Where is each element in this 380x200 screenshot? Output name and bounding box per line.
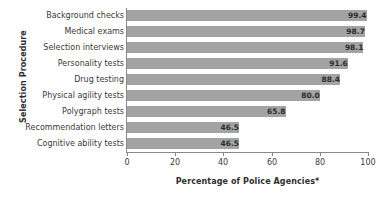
x-tick-label: 100 [353,158,380,167]
category-label: Physical agility tests [14,88,124,104]
category-label: Background checks [14,8,124,24]
x-tick-mark [223,152,224,156]
bar-row: 80.0 [127,88,368,104]
category-label: Recommendation letters [14,120,124,136]
category-label: Polygraph tests [14,104,124,120]
x-tick-mark [127,152,128,156]
bar-value-label: 65.8 [127,106,288,117]
plot-area: 99.4 98.7 98.1 91.6 88.4 80.0 65.8 46.5 [127,8,368,152]
bar-value-label: 46.5 [127,122,241,133]
bar-row: 99.4 [127,8,368,24]
bar-value-label: 99.4 [127,10,369,21]
bar-row: 91.6 [127,56,368,72]
x-tick-label: 40 [208,158,238,167]
bar-row: 46.5 [127,136,368,152]
x-tick-label: 0 [112,158,142,167]
category-label: Medical exams [14,24,124,40]
category-label: Cognitive ability tests [14,136,124,152]
bar-row: 65.8 [127,104,368,120]
bar-value-label: 91.6 [127,58,350,69]
bar-value-label: 46.5 [127,138,241,149]
bar-value-label: 80.0 [127,90,322,101]
bar-row: 46.5 [127,120,368,136]
x-axis-title: Percentage of Police Agencies* [127,177,368,186]
bar-row: 88.4 [127,72,368,88]
x-tick-label: 80 [305,158,335,167]
x-tick-mark [272,152,273,156]
bar-row: 98.1 [127,40,368,56]
x-tick-mark [175,152,176,156]
category-axis-labels: Background checks Medical exams Selectio… [14,8,124,152]
category-label: Personality tests [14,56,124,72]
bar-value-label: 88.4 [127,74,342,85]
x-axis-line [126,152,368,153]
bar-row: 98.7 [127,24,368,40]
category-label: Drug testing [14,72,124,88]
bar-value-label: 98.7 [127,26,367,37]
bar-value-label: 98.1 [127,42,365,53]
x-tick-mark [368,152,369,156]
x-tick-label: 20 [160,158,190,167]
category-label: Selection interviews [14,40,124,56]
x-tick-mark [320,152,321,156]
x-tick-label: 60 [257,158,287,167]
